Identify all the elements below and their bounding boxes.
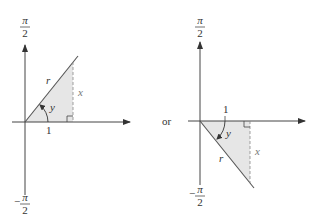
left-angle-label: y	[49, 101, 55, 113]
left-top-label-denominator: 2	[22, 27, 28, 39]
right-adjacent-label: 1	[223, 103, 229, 115]
right-bottom-label-denominator: 2	[197, 196, 203, 208]
left-bottom-label-neg-pi-over-2: − π 2	[14, 191, 30, 216]
left-bottom-label-denominator: 2	[22, 204, 28, 216]
left-opposite-label: x	[77, 86, 83, 98]
right-top-label-numerator: π	[197, 14, 203, 26]
right-angle-label: y	[225, 127, 231, 139]
right-top-label-pi-over-2: π 2	[195, 14, 205, 39]
left-adjacent-label: 1	[46, 124, 52, 136]
left-top-label-numerator: π	[22, 14, 28, 26]
left-top-label-pi-over-2: π 2	[20, 14, 30, 39]
diagram-canvas: π 2 − π 2 r x y 1 or π 2 −	[0, 0, 317, 220]
right-hypotenuse-label: r	[219, 152, 224, 164]
right-bottom-label-numerator: π	[197, 183, 203, 195]
right-opposite-label: x	[254, 145, 260, 157]
left-diagram: π 2 − π 2 r x y 1	[12, 14, 130, 216]
left-bottom-label-sign: −	[14, 195, 20, 207]
or-connector-text: or	[162, 115, 172, 127]
right-bottom-label-neg-pi-over-2: − π 2	[189, 183, 205, 208]
left-bottom-label-numerator: π	[22, 191, 28, 203]
right-bottom-label-sign: −	[189, 187, 195, 199]
left-hypotenuse-label: r	[46, 74, 51, 86]
right-diagram: π 2 − π 2 1 y r x	[188, 14, 305, 208]
right-top-label-denominator: 2	[197, 27, 203, 39]
